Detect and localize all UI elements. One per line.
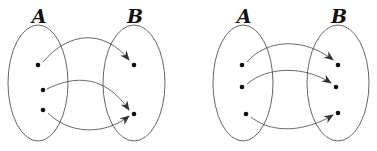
- domain-point: [41, 108, 46, 113]
- function-mapping-diagrams: A B A B: [0, 0, 377, 151]
- set-b-label: B: [126, 5, 143, 27]
- right-mapping-diagram: A B: [213, 5, 369, 141]
- left-mapping-diagram: A B: [8, 5, 165, 141]
- set-a-ellipse: [8, 25, 68, 141]
- set-b-label: B: [330, 5, 347, 27]
- domain-point: [240, 85, 245, 90]
- mapping-arrow: [247, 70, 331, 84]
- mapping-arrow: [43, 38, 129, 62]
- set-a-ellipse: [213, 25, 273, 141]
- codomain-point: [336, 111, 341, 116]
- codomain-point: [336, 63, 341, 68]
- mapping-arrow: [251, 115, 333, 129]
- set-a-label: A: [30, 5, 47, 27]
- domain-point: [244, 112, 249, 117]
- domain-point: [41, 88, 46, 93]
- set-a-label: A: [235, 5, 252, 27]
- codomain-point: [132, 63, 137, 68]
- domain-point: [240, 63, 245, 68]
- set-b-ellipse: [103, 25, 165, 141]
- mapping-arrow: [247, 44, 333, 62]
- codomain-point: [334, 85, 339, 90]
- mapping-arrow: [47, 80, 129, 110]
- codomain-point: [132, 112, 137, 117]
- domain-point: [36, 63, 41, 68]
